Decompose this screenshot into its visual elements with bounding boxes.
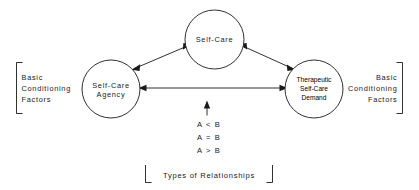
node-demand-line-2: Self-Care [300,85,328,92]
node-self-care-agency[interactable]: Self-Care Agency [82,60,140,118]
bracket-right-line-1: Basic [376,73,398,82]
diagram-canvas: Self-Care Self-Care Agency Therapeutic S… [0,0,419,190]
connector-line [242,46,293,69]
caption-rule-left [146,165,152,183]
caption-rule-right [267,165,273,183]
relation-line-3: A > B [197,146,221,155]
connector-line [135,46,189,69]
node-self-care-agency-line-1: Self-Care [92,81,130,90]
relation-line-1: A < B [197,120,221,129]
bracket-left-line-3: Factors [22,95,52,104]
bracket-right-basic-conditioning-factors: Basic Conditioning Factors [348,63,403,114]
diagram-svg: Self-Care Self-Care Agency Therapeutic S… [0,0,419,190]
relation-expressions: A < B A = B A > B [197,120,221,155]
node-self-care-line-1: Self-Care [196,35,234,44]
caption-text: Types of Relationships [163,171,255,180]
up-arrow-icon [204,101,210,116]
connector-demand-to-self-care [239,43,296,71]
bracket-left-basic-conditioning-factors: Basic Conditioning Factors [17,63,72,114]
node-self-care-agency-line-2: Agency [97,90,126,99]
caption-types-of-relationships: Types of Relationships [146,165,273,183]
node-demand-line-1: Therapeutic [297,76,333,84]
bracket-left-line-2: Conditioning [22,84,72,93]
up-arrow-head [204,101,210,109]
relation-line-2: A = B [197,133,221,142]
node-self-care[interactable]: Self-Care [185,10,244,69]
connector-agency-to-demand [139,85,288,91]
node-demand-line-3: Demand [302,94,327,101]
connector-agency-to-self-care [132,43,192,71]
node-therapeutic-self-care-demand[interactable]: Therapeutic Self-Care Demand [285,60,343,118]
bracket-right-line-3: Factors [368,95,398,104]
bracket-left-line-1: Basic [22,73,44,82]
bracket-right-line-2: Conditioning [348,84,398,93]
